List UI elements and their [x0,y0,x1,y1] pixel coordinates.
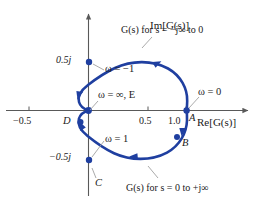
real-axis-label: Re[G(s)] [197,117,236,128]
point-E-marker [85,107,92,114]
point-label-A: A [189,113,195,124]
axes-group [6,14,248,196]
leader-omega-neg1 [93,64,104,70]
xtick-label-neg-half: −0.5 [13,116,31,126]
point-omega-neg1-marker [86,59,92,65]
annotation-upper-branch: G(s) for s = −j∞ to 0 [121,25,203,35]
nyquist-plot-figure: Im[G(s)] Re[G(s)] −0.5 0.5 1.0 0.5j −0.5… [0,0,260,205]
leader-omega-zero [189,97,199,108]
annotation-lower-branch: G(s) for s = 0 to +j∞ [126,183,208,193]
point-label-B: B [182,138,188,149]
point-label-C: C [95,178,102,189]
leader-lines [90,37,199,178]
point-B-marker [174,134,180,140]
omega-one-label: ω = 1 [105,134,128,145]
omega-neg-one-label: ω = −1 [105,64,134,75]
leader-omega-inf [90,101,98,110]
ytick-label-neg-half-j: −0.5j [49,152,71,162]
omega-zero-label: ω = 0 [198,87,221,98]
xtick-label-half: 0.5 [139,116,152,126]
omega-inf-E-label: ω = ∞, E [98,90,135,101]
leader-note-bottom [148,166,158,178]
point-label-D: D [63,116,71,127]
leader-note-top [142,37,152,48]
point-C-marker [86,157,92,163]
ytick-label-half-j: 0.5j [56,55,71,65]
xtick-label-one: 1.0 [168,116,181,126]
point-D-marker [78,119,84,125]
